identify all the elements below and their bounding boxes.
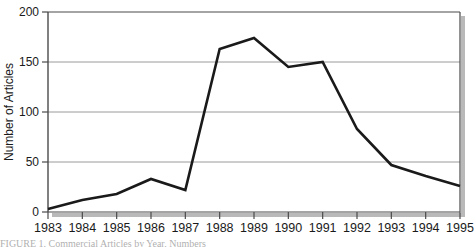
y-tick-label: 200 [19, 5, 39, 19]
x-tick-label: 1995 [446, 221, 474, 235]
x-tick-label: 1987 [171, 221, 199, 235]
figure-caption: FIGURE 1. Commercial Articles by Year, N… [0, 238, 476, 247]
y-tick-label: 50 [26, 155, 40, 169]
x-tick-label: 1989 [240, 221, 268, 235]
y-tick-label: 0 [32, 205, 39, 219]
x-tick-label: 1992 [343, 221, 371, 235]
x-tick-label: 1986 [137, 221, 165, 235]
y-axis-title: Number of Articles [2, 63, 16, 161]
x-axis-tick-labels: 1983198419851986198719881989199019911992… [34, 221, 474, 235]
x-tick-label: 1988 [206, 221, 234, 235]
x-tick-label: 1990 [274, 221, 302, 235]
y-axis-tick-labels: 200 150 100 50 0 [19, 5, 39, 219]
x-tick-label: 1994 [412, 221, 440, 235]
y-axis-ticks [42, 12, 48, 212]
y-tick-label: 150 [19, 55, 39, 69]
x-tick-label: 1991 [309, 221, 337, 235]
x-tick-label: 1993 [377, 221, 405, 235]
y-tick-label: 100 [19, 105, 39, 119]
x-tick-label: 1985 [103, 221, 131, 235]
x-tick-label: 1983 [34, 221, 62, 235]
x-tick-label: 1984 [68, 221, 96, 235]
